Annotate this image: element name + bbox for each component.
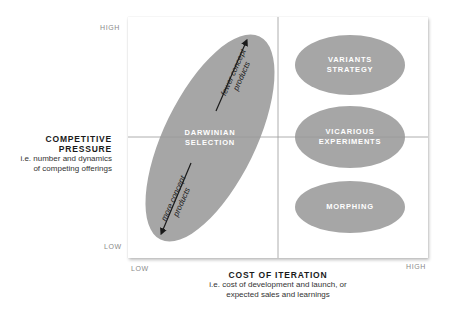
variants-label-line2: STRATEGY — [300, 65, 400, 75]
darwinian-label-line2: SELECTION — [160, 138, 260, 148]
vicarious-experiments-label: VICARIOUS EXPERIMENTS — [300, 127, 400, 147]
x-axis-title-text: COST OF ITERATION — [178, 270, 378, 280]
x-axis-title: COST OF ITERATION i.e. cost of developme… — [178, 270, 378, 300]
x-axis-high-label: HIGH — [406, 263, 426, 270]
x-axis-subtitle-line2: expected sales and learnings — [178, 290, 378, 300]
vicarious-label-line1: VICARIOUS — [300, 127, 400, 137]
darwinian-selection-label: DARWINIAN SELECTION — [160, 128, 260, 148]
darwinian-label-line1: DARWINIAN — [160, 128, 260, 138]
variants-label-line1: VARIANTS — [300, 55, 400, 65]
morphing-label: MORPHING — [300, 202, 400, 212]
variants-strategy-label: VARIANTS STRATEGY — [300, 55, 400, 75]
morphing-label-line1: MORPHING — [300, 202, 400, 212]
vicarious-label-line2: EXPERIMENTS — [300, 137, 400, 147]
x-axis-subtitle-line1: i.e. cost of development and launch, or — [178, 280, 378, 290]
x-axis-low-label: LOW — [131, 265, 149, 272]
